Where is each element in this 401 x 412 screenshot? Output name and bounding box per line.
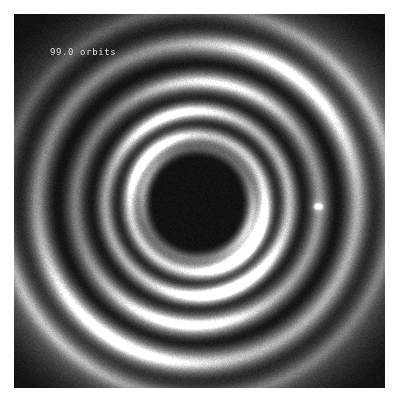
- figure-page: 99.0 orbits: [0, 0, 401, 412]
- companion-point-marker: [315, 204, 322, 209]
- simulation-frame: 99.0 orbits: [14, 14, 385, 388]
- disk-simulation-canvas: [14, 14, 385, 388]
- orbit-count-label: 99.0 orbits: [50, 47, 116, 58]
